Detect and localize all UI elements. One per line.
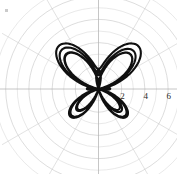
polar-plot-figure: 2 4 6 bbox=[0, 0, 177, 174]
radial-tick-label-6: 6 bbox=[167, 92, 172, 101]
polar-plot-canvas bbox=[0, 0, 177, 174]
radial-tick-label-4: 4 bbox=[143, 92, 148, 101]
radial-tick-label-2: 2 bbox=[120, 92, 125, 101]
